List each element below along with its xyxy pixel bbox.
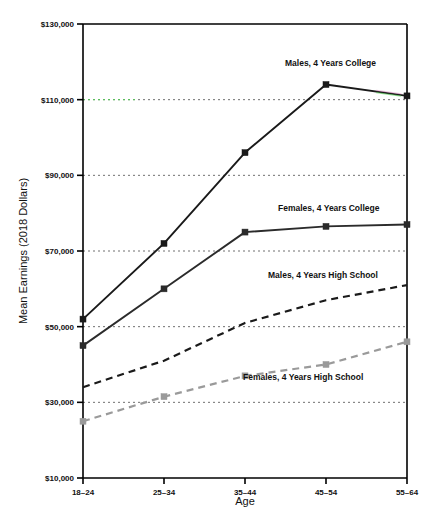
series-line — [83, 225, 407, 346]
y-axis-title: Mean Earnings (2018 Dollars) — [17, 178, 29, 324]
series-label: Females, 4 Years High School — [243, 372, 363, 382]
y-tick-label: $110,000 — [41, 96, 74, 105]
data-point-marker — [323, 223, 329, 229]
data-point-marker — [80, 343, 86, 349]
gridlines — [83, 100, 407, 403]
data-point-marker — [80, 316, 86, 322]
y-tick-label: $10,000 — [45, 474, 74, 483]
data-point-marker — [323, 362, 329, 368]
series-0: Males, 4 Years College — [80, 58, 410, 322]
data-point-marker — [242, 150, 248, 156]
earnings-by-age-chart: $10,000$30,000$50,000$70,000$90,000$110,… — [0, 0, 442, 515]
x-tick-label: 25–34 — [153, 488, 176, 497]
y-tick-label: $50,000 — [45, 323, 74, 332]
series-label: Females, 4 Years College — [278, 203, 380, 213]
data-point-marker — [161, 240, 167, 246]
y-tick-label: $130,000 — [41, 20, 75, 29]
y-axis-ticks: $10,000$30,000$50,000$70,000$90,000$110,… — [41, 20, 83, 483]
y-tick-label: $30,000 — [45, 398, 74, 407]
series-line — [83, 85, 407, 320]
data-point-marker — [242, 229, 248, 235]
data-point-marker — [80, 418, 86, 424]
series-2: Males, 4 Years High School — [83, 270, 407, 387]
y-tick-label: $70,000 — [45, 247, 74, 256]
x-tick-label: 55–64 — [396, 488, 419, 497]
data-point-marker — [323, 82, 329, 88]
data-point-marker — [404, 222, 410, 228]
x-axis-title: Age — [235, 495, 255, 507]
data-point-marker — [404, 93, 410, 99]
series-3: Females, 4 Years High School — [80, 339, 410, 424]
x-tick-label: 45–54 — [315, 488, 338, 497]
series-label: Males, 4 Years College — [285, 58, 376, 68]
x-tick-label: 18–24 — [72, 488, 95, 497]
data-point-marker — [161, 394, 167, 400]
y-tick-label: $90,000 — [45, 171, 74, 180]
chart-canvas: $10,000$30,000$50,000$70,000$90,000$110,… — [0, 0, 442, 515]
data-point-marker — [404, 339, 410, 345]
series-label: Males, 4 Years High School — [268, 270, 378, 280]
data-point-marker — [161, 286, 167, 292]
